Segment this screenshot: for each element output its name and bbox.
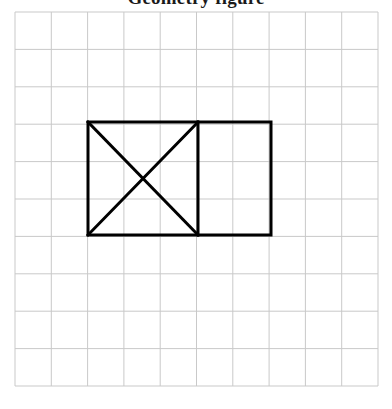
geometry-figure xyxy=(0,0,392,409)
worksheet-canvas: Geometry figure xyxy=(0,0,392,409)
